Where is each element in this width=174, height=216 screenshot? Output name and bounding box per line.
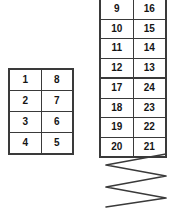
grid-cell: 7 xyxy=(41,91,73,112)
grid-cell: 8 xyxy=(41,69,73,91)
table-row: 4 5 xyxy=(9,133,73,155)
grid-cell: 10 xyxy=(100,19,133,39)
grid-cell: 4 xyxy=(9,133,41,155)
table-row: 12 13 xyxy=(100,58,166,78)
right-number-grid: 9 16 10 15 11 14 12 13 17 24 18 23 19 22… xyxy=(99,0,167,158)
table-row: 2 7 xyxy=(9,91,73,112)
grid-cell: 22 xyxy=(133,118,166,138)
grid-cell: 19 xyxy=(100,118,133,138)
table-row: 11 14 xyxy=(100,39,166,59)
grid-cell: 2 xyxy=(9,91,41,112)
grid-cell: 13 xyxy=(133,58,166,78)
grid-cell: 16 xyxy=(133,0,166,19)
zigzag-svg xyxy=(100,152,174,212)
left-number-grid: 1 8 2 7 3 6 4 5 xyxy=(8,68,74,155)
grid-cell: 11 xyxy=(100,39,133,59)
table-row: 1 8 xyxy=(9,69,73,91)
grid-cell: 12 xyxy=(100,58,133,78)
table-row: 17 24 xyxy=(100,78,166,98)
grid-cell: 3 xyxy=(9,112,41,133)
grid-cell: 23 xyxy=(133,98,166,118)
zigzag-polyline xyxy=(106,154,166,207)
grid-cell: 1 xyxy=(9,69,41,91)
table-row: 10 15 xyxy=(100,19,166,39)
right-grid-body: 9 16 10 15 11 14 12 13 17 24 18 23 19 22… xyxy=(100,0,166,157)
grid-cell: 6 xyxy=(41,112,73,133)
left-grid-body: 1 8 2 7 3 6 4 5 xyxy=(9,69,73,154)
grid-cell: 24 xyxy=(133,78,166,98)
grid-cell: 17 xyxy=(100,78,133,98)
grid-cell: 5 xyxy=(41,133,73,155)
table-row: 19 22 xyxy=(100,118,166,138)
table-row: 3 6 xyxy=(9,112,73,133)
serpentine-zigzag xyxy=(100,152,174,212)
grid-cell: 9 xyxy=(100,0,133,19)
table-row: 9 16 xyxy=(100,0,166,19)
grid-cell: 14 xyxy=(133,39,166,59)
table-row: 18 23 xyxy=(100,98,166,118)
grid-cell: 18 xyxy=(100,98,133,118)
grid-cell: 15 xyxy=(133,19,166,39)
